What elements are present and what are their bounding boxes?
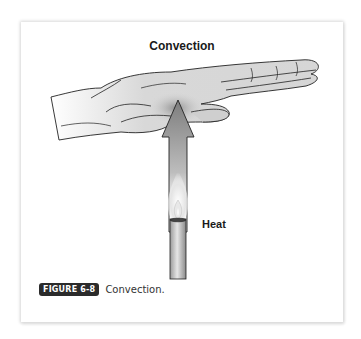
figure-caption: FIGURE 6-8 Convection. — [39, 283, 165, 296]
bunsen-burner-icon — [170, 218, 186, 279]
figure-caption-text: Convection. — [105, 284, 164, 295]
figure-number-badge: FIGURE 6-8 — [39, 283, 99, 296]
convection-illustration — [21, 22, 343, 322]
heat-label: Heat — [202, 218, 226, 230]
figure-card: Convection — [21, 22, 343, 322]
